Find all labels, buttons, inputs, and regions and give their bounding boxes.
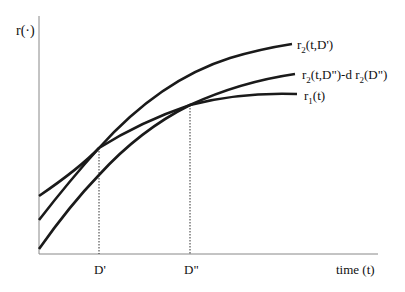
y-axis-label: r(·): [16, 24, 35, 38]
x-tick-d-double-prime: D": [184, 263, 199, 276]
curve-r2-d-prime: [39, 44, 292, 220]
x-axis-label: time (t): [336, 263, 375, 276]
curve-r1: [39, 94, 297, 196]
curve-label-r2-d-prime: r2(t,D'): [297, 38, 333, 55]
curve-label-r2-d-double-prime: r2(t,D")-d r2(D"): [302, 68, 387, 85]
x-tick-d-prime: D': [94, 263, 106, 276]
curve-label-r1: r1(t): [304, 89, 325, 106]
curve-r2-d-double-prime: [39, 74, 295, 249]
diagram-canvas: [0, 0, 405, 292]
